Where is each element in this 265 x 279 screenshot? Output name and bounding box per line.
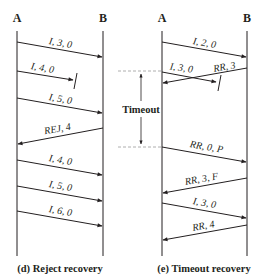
- frame-label: I, 6, 0: [47, 203, 73, 218]
- timeout-recovery-caption: (e) Timeout recovery: [157, 263, 251, 275]
- hdlc-error-recovery-diagram: A B I, 3, 0 I, 4, 0 I, 5, 0 REJ, 4 I, 4,…: [0, 0, 265, 279]
- frame-arrow: I, 3, 0: [17, 35, 102, 57]
- final-frame-arrow: RR, 3, F: [163, 170, 247, 193]
- frame-label: I, 5, 0: [47, 178, 73, 193]
- poll-frame-arrow: RR, 0, P: [162, 138, 246, 162]
- station-b-label: B: [243, 11, 251, 25]
- station-a-label: A: [13, 11, 22, 25]
- timeout-interval: Timeout: [118, 71, 162, 147]
- frame-arrow: I, 3, 0: [162, 195, 246, 218]
- frame-arrow: I, 5, 0: [17, 178, 102, 201]
- frame-lost-marker: [218, 75, 221, 91]
- frame-arrow: I, 6, 0: [17, 203, 102, 226]
- frame-label: RR, 3, F: [183, 170, 220, 187]
- timeout-recovery-panel: A B Timeout I, 2, 0 I, 3, 0 RR, 3: [118, 11, 251, 275]
- reject-recovery-panel: A B I, 3, 0 I, 4, 0 I, 5, 0 REJ, 4 I, 4,…: [13, 11, 107, 275]
- reject-frame-arrow: REJ, 4: [18, 121, 103, 144]
- receive-ready-arrow: RR, 4: [163, 218, 247, 240]
- frame-arrow: I, 2, 0: [162, 35, 246, 57]
- frame-label: I, 4, 0: [47, 152, 73, 167]
- frame-label: REJ, 4: [42, 121, 71, 137]
- frame-arrow: I, 5, 0: [17, 91, 102, 113]
- station-a-label: A: [158, 11, 167, 25]
- timeout-label: Timeout: [122, 104, 160, 115]
- station-b-label: B: [99, 11, 107, 25]
- lost-frame-arrow: I, 4, 0: [17, 60, 77, 89]
- frame-label: RR, 3: [212, 59, 237, 74]
- frame-lost-marker: [74, 73, 77, 89]
- frame-label: I, 3, 0: [191, 195, 217, 210]
- reject-recovery-caption: (d) Reject recovery: [17, 263, 103, 275]
- frame-arrow: I, 4, 0: [17, 152, 102, 175]
- frame-label: I, 3, 0: [168, 60, 194, 74]
- frame-label: I, 4, 0: [29, 60, 55, 75]
